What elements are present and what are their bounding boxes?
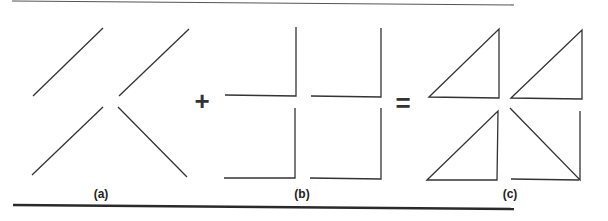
panel-c-label: (c) <box>503 187 518 201</box>
triangle-top-right <box>511 30 582 99</box>
corner-top-right <box>311 28 381 97</box>
triangle-bottom-right <box>510 108 580 180</box>
triangle-bottom-right-base <box>511 179 579 180</box>
panel-a <box>32 28 189 177</box>
top-rule <box>12 1 514 5</box>
diagonal-top-left <box>33 28 103 96</box>
equals-sign: = <box>395 88 410 118</box>
panel-b <box>224 27 381 179</box>
triangle-top-left <box>429 29 499 98</box>
figure-canvas: (a) + (b) = (c) <box>0 0 608 221</box>
diagonal-top-right <box>119 29 189 96</box>
panel-c <box>427 29 582 180</box>
panel-a-label: (a) <box>94 187 109 201</box>
corner-top-left <box>225 27 296 96</box>
bottom-rule <box>13 205 514 209</box>
triangle-bottom-left <box>427 111 498 180</box>
corner-bottom-left <box>224 108 295 178</box>
plus-sign: + <box>194 86 209 116</box>
corner-bottom-right <box>310 108 381 179</box>
diagonal-bottom-left <box>32 107 103 175</box>
diagonal-bottom-right <box>118 107 187 177</box>
panel-b-label: (b) <box>294 187 309 201</box>
